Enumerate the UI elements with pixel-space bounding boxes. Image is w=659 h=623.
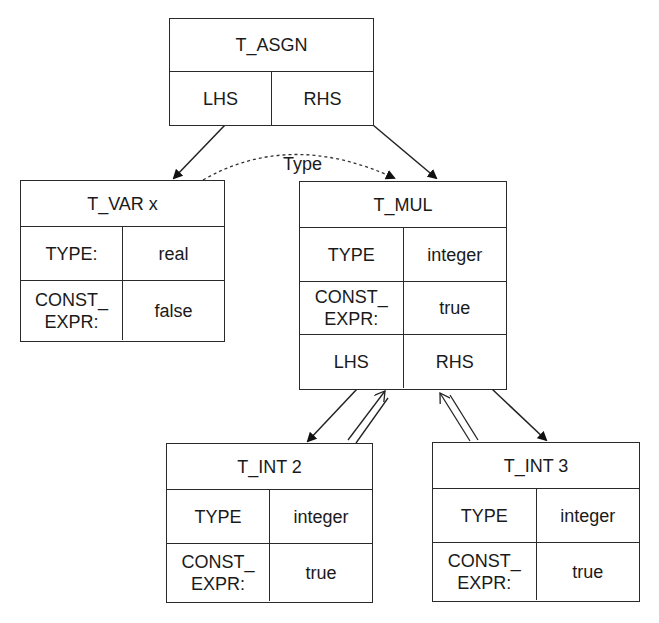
node-t-mul: T_MUL TYPE integer CONST_ EXPR: true LHS… [299, 181, 507, 390]
edge-asgn-lhs-to-var [174, 125, 225, 178]
node-title: T_INT 3 [433, 443, 639, 488]
field-type-value: integer [403, 228, 507, 281]
field-rhs: RHS [271, 72, 373, 125]
field-type-label: TYPE [167, 490, 269, 543]
edge-label-type: Type [283, 154, 322, 175]
field-lhs: LHS [170, 72, 271, 125]
field-const-expr-label: CONST_ EXPR: [167, 544, 269, 601]
edge-mul-lhs-to-int2 [308, 389, 357, 441]
field-const-expr-value: false [122, 281, 224, 340]
node-title: T_MUL [300, 182, 506, 227]
field-type-value: real [122, 227, 224, 280]
edge-mul-rhs-to-int3 [492, 389, 546, 440]
node-t-var-x: T_VAR x TYPE: real CONST_ EXPR: false [20, 180, 225, 342]
field-type-value: integer [536, 489, 640, 542]
field-const-expr-value: true [269, 544, 372, 601]
node-t-int-2: T_INT 2 TYPE integer CONST_ EXPR: true [166, 443, 373, 603]
node-title: T_VAR x [21, 181, 224, 226]
node-title: T_ASGN [170, 19, 373, 71]
edge-int2-to-mul-b [356, 398, 388, 443]
field-type-label: TYPE [433, 489, 536, 542]
field-const-expr-value: true [403, 282, 507, 334]
edge-asgn-rhs-to-mul [373, 125, 436, 178]
field-const-expr-value: true [536, 543, 640, 600]
edge-int2-to-mul-a [348, 391, 385, 440]
field-type-value: integer [269, 490, 372, 543]
edge-int3-to-mul-b [450, 395, 478, 440]
field-type-label: TYPE [300, 228, 403, 281]
node-t-asgn: T_ASGN LHS RHS [169, 18, 374, 126]
edge-int3-to-mul-a [440, 393, 470, 441]
field-const-expr-label: CONST_ EXPR: [433, 543, 536, 600]
node-title: T_INT 2 [167, 444, 372, 489]
field-rhs: RHS [403, 335, 507, 388]
field-const-expr-label: CONST_ EXPR: [21, 281, 122, 340]
node-t-int-3: T_INT 3 TYPE integer CONST_ EXPR: true [432, 442, 640, 602]
field-const-expr-label: CONST_ EXPR: [300, 282, 403, 334]
field-type-label: TYPE: [21, 227, 122, 280]
field-lhs: LHS [300, 335, 403, 388]
